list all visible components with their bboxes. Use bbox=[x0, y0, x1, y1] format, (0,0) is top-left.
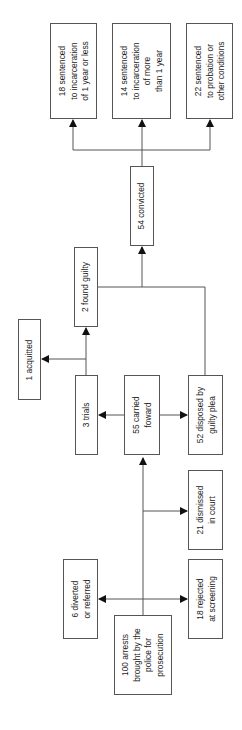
node-arrests: 100 arrests brought by the police for pr… bbox=[114, 615, 172, 695]
node-label: 54 convicted bbox=[136, 182, 148, 229]
node-sentenced-1yr-or-less: 18 sentenced to incarceration of 1 year … bbox=[50, 23, 97, 119]
node-trials: 3 trials bbox=[75, 375, 98, 455]
node-label: 1 acquitted bbox=[24, 339, 36, 380]
node-label: 22 sentenced to probation or other condi… bbox=[192, 41, 227, 100]
node-label: 55 carried foward bbox=[131, 396, 154, 433]
node-label: 18 rejected at screening bbox=[194, 576, 217, 622]
node-label: 18 sentenced to incarceration of 1 year … bbox=[56, 41, 91, 101]
node-found-guilty: 2 found guilty bbox=[74, 247, 98, 327]
node-guilty-plea: 52 disposed by guilty plea bbox=[188, 375, 223, 455]
node-acquitted: 1 acquitted bbox=[18, 319, 41, 400]
node-sentenced-over-1yr: 14 sentenced to incarceration of more th… bbox=[112, 23, 171, 119]
node-rejected: 18 rejected at screening bbox=[188, 559, 223, 639]
node-label: 2 found guilty bbox=[80, 262, 92, 312]
node-label: 14 sentenced to incarceration of more th… bbox=[119, 42, 165, 99]
node-diverted: 6 diverted or referred bbox=[63, 559, 98, 639]
node-sentenced-probation: 22 sentenced to probation or other condi… bbox=[186, 23, 233, 119]
node-carried-forward: 55 carried foward bbox=[124, 375, 160, 455]
node-label: 3 trials bbox=[81, 403, 93, 428]
node-label: 52 disposed by guilty plea bbox=[194, 387, 217, 443]
node-dismissed: 21 dismissed in court bbox=[188, 470, 223, 550]
node-label: 6 diverted or referred bbox=[69, 579, 92, 618]
node-label: 21 dismissed in court bbox=[194, 486, 217, 535]
node-label: 100 arrests brought by the police for pr… bbox=[120, 628, 166, 682]
node-convicted: 54 convicted bbox=[130, 166, 154, 246]
